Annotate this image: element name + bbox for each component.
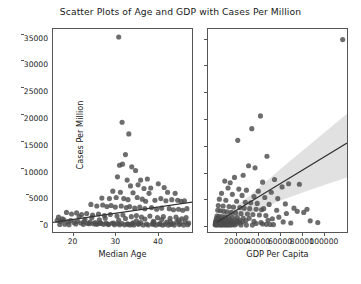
scatter-point	[69, 211, 74, 216]
scatter-point	[128, 183, 133, 188]
scatter-point	[120, 120, 125, 125]
scatter-point	[258, 113, 263, 118]
scatter-point	[103, 216, 108, 221]
scatter-point	[115, 174, 120, 179]
scatter-point	[152, 198, 157, 203]
x-axis-label-median-age: Median Age	[52, 249, 193, 259]
scatter-point	[281, 219, 286, 224]
scatter-point	[93, 222, 98, 227]
scatter-point	[217, 197, 222, 202]
scatter-point	[81, 222, 86, 227]
scatter-point	[99, 195, 104, 200]
scatter-point	[148, 185, 153, 190]
scatter-figure: Scatter Plots of Age and GDP with Cases …	[0, 0, 361, 284]
scatter-point	[94, 203, 99, 208]
y-tick-mark	[40, 221, 43, 222]
scatter-point	[257, 212, 262, 217]
scatter-point	[113, 205, 118, 210]
scatter-point	[230, 192, 235, 197]
scatter-point	[288, 220, 293, 225]
scatter-point	[173, 191, 178, 196]
x-axis-label-gdp: GDP Per Capita	[207, 249, 348, 259]
scatter-point	[141, 186, 146, 191]
scatter-point	[156, 181, 161, 186]
scatter-point	[165, 190, 170, 195]
scatter-point	[249, 126, 254, 131]
scatter-point	[163, 198, 168, 203]
scatter-point	[224, 209, 229, 214]
scatter-point	[97, 217, 102, 222]
scatter-point	[125, 222, 130, 227]
scatter-point	[127, 204, 132, 209]
scatter-point	[280, 184, 285, 189]
scatter-point	[252, 165, 257, 170]
y-tick-label: 20000	[24, 114, 52, 124]
scatter-point	[263, 213, 268, 218]
scatter-point	[247, 206, 252, 211]
scatter-point	[295, 209, 300, 214]
scatter-point	[123, 152, 128, 157]
scatter-point	[123, 216, 128, 221]
scatter-point	[158, 196, 163, 201]
scatter-point	[159, 217, 164, 222]
x-tick-label: 20	[68, 237, 78, 246]
scatter-point	[129, 164, 134, 169]
scatter-point	[184, 206, 189, 211]
scatter-point	[116, 34, 121, 39]
scatter-point	[176, 218, 181, 223]
scatter-point	[275, 196, 280, 201]
scatter-point	[138, 177, 143, 182]
x-tick-mark	[280, 233, 281, 236]
scatter-point	[142, 216, 147, 221]
scatter-point	[186, 221, 191, 226]
scatter-point	[236, 186, 241, 191]
figure-title: Scatter Plots of Age and GDP with Cases …	[0, 6, 361, 17]
scatter-point	[119, 203, 124, 208]
confidence-band	[217, 114, 347, 224]
x-tick-mark	[115, 233, 116, 236]
scatter-point	[227, 204, 232, 209]
scatter-point	[264, 154, 269, 159]
x-tick-label: 20000	[224, 237, 248, 246]
y-tick-label: 35000	[24, 34, 52, 44]
scatter-point	[225, 185, 230, 190]
scatter-point	[162, 185, 167, 190]
scatter-point	[231, 205, 236, 210]
scatter-point	[256, 189, 261, 194]
scatter-point	[134, 218, 139, 223]
y-tick-label: 30000	[24, 60, 52, 70]
scatter-point	[286, 181, 291, 186]
y-tick-label: 5000	[29, 194, 52, 204]
scatter-point	[315, 220, 320, 225]
scatter-point	[129, 214, 134, 219]
scatter-point	[107, 196, 112, 201]
x-tick-mark	[258, 233, 259, 236]
scatter-point	[118, 190, 123, 195]
x-tick-label: 40	[153, 237, 163, 246]
y-tick-mark	[21, 87, 24, 88]
scatter-point	[238, 211, 243, 216]
scatter-point	[73, 221, 78, 226]
scatter-point	[271, 222, 276, 227]
scatter-point	[87, 221, 92, 226]
scatter-point	[135, 195, 140, 200]
x-tick-label: 80000	[290, 237, 314, 246]
scatter-point	[301, 210, 306, 215]
scatter-point	[126, 131, 131, 136]
scatter-point	[262, 195, 267, 200]
scatter-point	[232, 175, 237, 180]
y-tick-mark	[21, 34, 24, 35]
x-tick-label: 30	[110, 237, 120, 246]
x-tick-mark	[324, 233, 325, 236]
scatter-point	[116, 218, 121, 223]
scatter-point	[232, 222, 237, 227]
x-tick-mark	[158, 233, 159, 236]
x-tick-label: 40000	[246, 237, 270, 246]
scatter-point	[221, 203, 226, 208]
scatter-point	[66, 222, 71, 227]
scatter-point	[255, 201, 260, 206]
scatter-point	[133, 168, 138, 173]
scatter-point	[125, 197, 130, 202]
scatter-point	[261, 206, 266, 211]
scatter-point	[308, 218, 313, 223]
